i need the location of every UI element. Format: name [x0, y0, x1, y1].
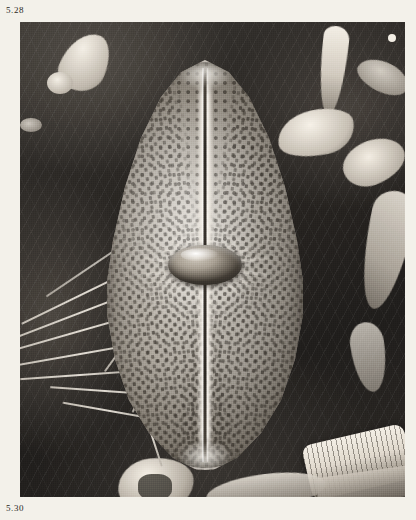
debris-fragment: [388, 34, 396, 42]
central-nodule-highlight: [181, 248, 219, 261]
debris-fragment: [47, 72, 73, 94]
figure-label-bottom: 5.30: [6, 503, 24, 513]
micrograph-plate: [20, 22, 405, 497]
valve-face: [105, 60, 305, 470]
diatom-valve: [105, 60, 305, 470]
printed-page: 5.28: [0, 0, 416, 520]
figure-label-top: 5.28: [6, 5, 24, 15]
debris-fragment: [20, 118, 42, 132]
debris-fragment: [138, 474, 172, 497]
